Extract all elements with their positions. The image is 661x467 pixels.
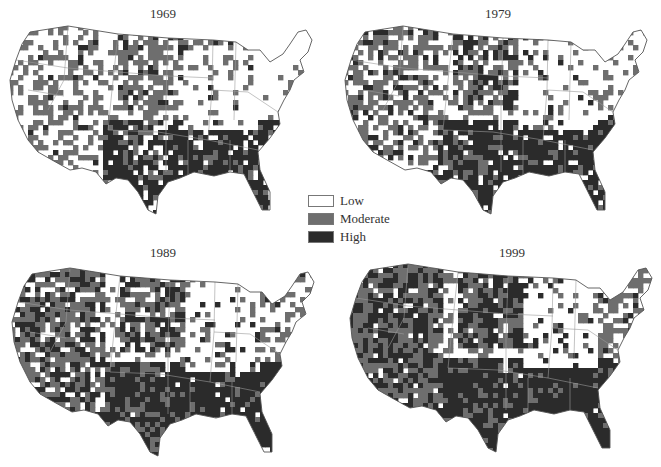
us-map-1969 [8, 20, 318, 216]
legend-label-high: High [340, 229, 366, 245]
us-map-1979 [343, 20, 653, 216]
legend-item-high: High [308, 228, 390, 246]
panel-title-1989: 1989 [133, 245, 193, 261]
legend-item-low: Low [308, 192, 390, 210]
legend-swatch-moderate [308, 213, 334, 225]
legend-label-low: Low [340, 193, 364, 209]
us-map-1989 [10, 262, 320, 458]
legend-swatch-high [308, 231, 334, 243]
legend-label-moderate: Moderate [340, 211, 390, 227]
us-map-1999 [348, 258, 658, 454]
legend: Low Moderate High [308, 192, 390, 246]
legend-swatch-low [308, 195, 334, 207]
legend-item-moderate: Moderate [308, 210, 390, 228]
